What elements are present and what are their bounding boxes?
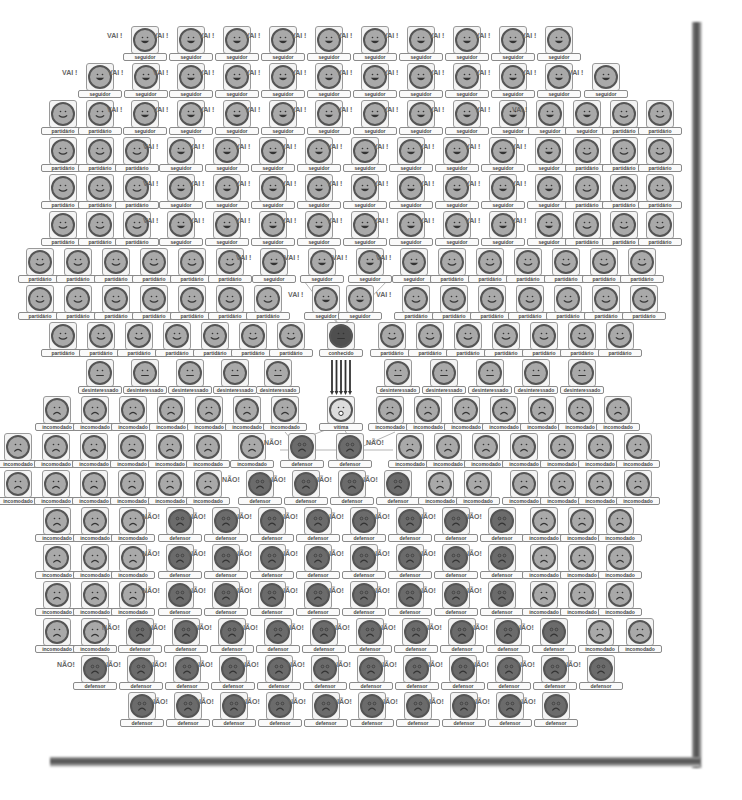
node-defensor[interactable]: defensor	[480, 544, 524, 580]
frowning-face-icon	[6, 472, 30, 496]
node-label: defensor	[158, 534, 202, 542]
node-frame	[414, 396, 442, 424]
node-frame	[132, 63, 160, 91]
node-label: seguidor	[261, 53, 305, 61]
node-label: seguidor	[481, 164, 525, 172]
node-label: seguidor	[215, 90, 259, 98]
nao-tag: NÃO!	[280, 587, 298, 594]
node-partidario[interactable]: partidário	[638, 211, 682, 247]
node-label: defensor	[388, 571, 432, 579]
node-label: defensor	[296, 534, 340, 542]
node-partidario[interactable]: partidário	[638, 100, 682, 136]
node-defensor[interactable]: defensor	[532, 618, 576, 654]
node-frame	[548, 470, 576, 498]
node-desinteressado[interactable]: desinteressado	[256, 359, 300, 395]
node-partidario[interactable]: partidário	[246, 285, 290, 321]
node-partidario[interactable]: partidário	[622, 285, 666, 321]
node-frame	[646, 211, 674, 239]
node-frame	[86, 211, 114, 239]
node-label: seguidor	[353, 53, 397, 61]
node-incomodado[interactable]: incomodado	[596, 396, 640, 432]
node-label: defensor	[434, 534, 478, 542]
node-partidario[interactable]: partidário	[620, 248, 664, 284]
node-incomodado[interactable]: incomodado	[598, 507, 642, 543]
node-conhecido[interactable]: conhecido	[319, 322, 363, 358]
node-defensor[interactable]: defensor	[480, 507, 524, 543]
node-desinteressado[interactable]: desinteressado	[514, 359, 558, 395]
node-frame	[312, 285, 340, 313]
node-incomodado[interactable]: incomodado	[618, 618, 662, 654]
node-defensor[interactable]: defensor	[280, 433, 324, 469]
nao-tag: NÃO!	[142, 550, 160, 557]
node-defensor[interactable]: defensor	[534, 692, 578, 728]
node-frame	[407, 26, 435, 54]
node-label: seguidor	[205, 238, 249, 246]
node-desinteressado[interactable]: desinteressado	[560, 359, 604, 395]
node-frame	[434, 433, 462, 461]
node-label: partidário	[638, 127, 682, 135]
node-frame	[212, 581, 240, 609]
node-frame	[119, 507, 147, 535]
node-label: defensor	[395, 682, 439, 690]
nao-tag: NÃO!	[517, 661, 535, 668]
node-desinteressado[interactable]: desinteressado	[468, 359, 512, 395]
node-defensor[interactable]: defensor	[480, 581, 524, 617]
node-incomodado[interactable]: incomodado	[186, 433, 230, 469]
node-incomodado[interactable]: incomodado	[616, 433, 660, 469]
smiley-face-icon	[180, 250, 204, 274]
smiley-face-icon	[88, 139, 112, 163]
node-desinteressado[interactable]: desinteressado	[123, 359, 167, 395]
node-frame	[530, 544, 558, 572]
node-incomodado[interactable]: incomodado	[598, 544, 642, 580]
node-label: seguidor	[399, 127, 443, 135]
node-label: seguidor	[343, 238, 387, 246]
node-partidario[interactable]: partidário	[269, 322, 313, 358]
node-label: incomodado	[111, 534, 155, 542]
node-frame	[220, 692, 248, 720]
node-frame	[259, 211, 287, 239]
neutral-face-icon	[266, 361, 290, 385]
node-seguidor[interactable]: seguidor	[537, 26, 581, 62]
node-label: defensor	[440, 645, 484, 653]
node-label: seguidor	[297, 164, 341, 172]
node-desinteressado[interactable]: desinteressado	[422, 359, 466, 395]
node-incomodado[interactable]: incomodado	[616, 470, 660, 506]
vai-tag: VAI !	[189, 143, 204, 150]
node-label: defensor	[204, 534, 248, 542]
vai-tag: VAI !	[235, 217, 250, 224]
node-label: incomodado	[456, 497, 500, 505]
node-label: vítima	[319, 423, 363, 431]
node-seguidor[interactable]: seguidor	[584, 63, 628, 99]
node-defensor[interactable]: defensor	[376, 470, 420, 506]
node-frame	[166, 544, 194, 572]
node-vitima[interactable]: vítima	[319, 396, 363, 432]
node-frame	[315, 63, 343, 91]
node-frame	[442, 544, 470, 572]
node-defensor[interactable]: defensor	[579, 655, 623, 691]
node-frame	[156, 470, 184, 498]
node-incomodado[interactable]: incomodado	[578, 618, 622, 654]
vai-tag: VAI !	[281, 180, 296, 187]
node-desinteressado[interactable]: desinteressado	[78, 359, 122, 395]
node-frame	[126, 618, 154, 646]
node-partidario[interactable]: partidário	[638, 137, 682, 173]
node-incomodado[interactable]: incomodado	[456, 470, 500, 506]
node-frame	[43, 618, 71, 646]
node-label: defensor	[534, 719, 578, 727]
node-desinteressado[interactable]: desinteressado	[213, 359, 257, 395]
node-desinteressado[interactable]: desinteressado	[168, 359, 212, 395]
frowning-face-icon	[83, 509, 107, 533]
node-label: partidário	[620, 275, 664, 283]
smiley-face-icon	[478, 250, 502, 274]
node-label: defensor	[250, 608, 294, 616]
node-frame	[81, 396, 109, 424]
smiley-face-icon	[180, 287, 204, 311]
node-desinteressado[interactable]: desinteressado	[376, 359, 420, 395]
node-frame	[449, 655, 477, 683]
node-partidario[interactable]: partidário	[638, 174, 682, 210]
node-frame	[119, 581, 147, 609]
smiley-face-icon	[203, 324, 227, 348]
node-incomodado[interactable]: incomodado	[263, 396, 307, 432]
node-partidario[interactable]: partidário	[598, 322, 642, 358]
node-incomodado[interactable]: incomodado	[598, 581, 642, 617]
